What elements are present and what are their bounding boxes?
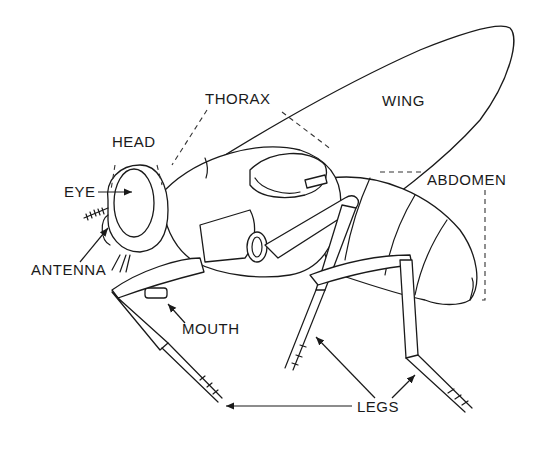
wing-label: WING [382,92,425,109]
eye-label: EYE [64,183,96,200]
abdomen-label: ABDOMEN [427,171,506,188]
mouth-shape [145,288,167,298]
head-label: HEAD [112,133,156,150]
thorax-shape [163,147,341,277]
insect-diagram: THORAX WING HEAD EYE ABDOMEN ANTENNA MOU… [0,0,539,449]
abdomen-shape [321,177,477,304]
thorax-leader-left [172,110,207,165]
mouth-label: MOUTH [182,320,240,337]
antenna-label: ANTENNA [31,261,106,278]
legs-label: LEGS [357,398,399,415]
thorax-label: THORAX [205,90,271,107]
legs-arrow-middle [316,337,375,398]
head-shape [84,165,168,272]
legs-arrow-hind [392,375,415,398]
abdomen-leader-right [478,190,485,300]
antenna-arrow [80,228,108,262]
